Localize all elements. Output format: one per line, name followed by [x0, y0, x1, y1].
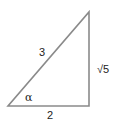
vertical-side-label: √5: [97, 64, 109, 75]
hypotenuse-label: 3: [39, 47, 45, 58]
angle-alpha-label: α: [25, 92, 32, 103]
right-triangle: [8, 12, 89, 106]
base-label: 2: [47, 110, 53, 121]
